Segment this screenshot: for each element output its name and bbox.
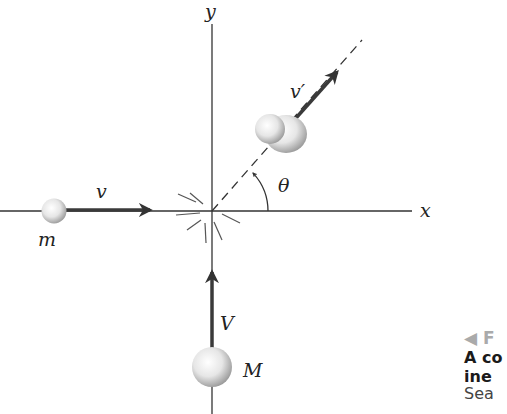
large-mass-label: M	[242, 359, 263, 381]
combined-mass-balls	[255, 114, 307, 153]
caption-tag: ◀ F	[464, 328, 507, 348]
small-velocity-label: v	[96, 180, 107, 202]
caption-line-3: Sea	[464, 386, 507, 402]
x-axis-label: x	[420, 199, 431, 221]
angle-theta-label: θ	[278, 174, 290, 196]
y-axis-label: y	[204, 0, 216, 22]
caption-line-1: A co	[464, 348, 507, 367]
figure-caption: ◀ F A co ine Sea	[464, 328, 507, 402]
small-mass-label: m	[38, 228, 56, 250]
angle-theta-arc	[253, 173, 268, 211]
large-velocity-label: V	[220, 312, 236, 334]
collision-burst-icon	[176, 193, 240, 243]
small-mass-ball	[42, 199, 67, 224]
large-mass-ball	[192, 347, 232, 387]
final-velocity-label: v′	[290, 80, 306, 102]
